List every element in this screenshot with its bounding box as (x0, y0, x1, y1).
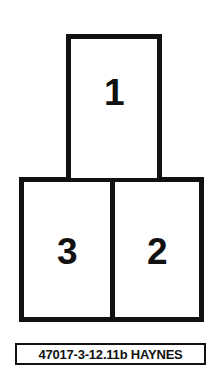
caption-reference-text: 47017-3-12.11b HAYNES (38, 348, 182, 361)
box-merge-gap (71, 172, 157, 178)
diagram-box-3: 3 (19, 177, 115, 322)
caption-plate: 47017-3-12.11b HAYNES (15, 343, 206, 365)
figure-root: 1 3 2 47017-3-12.11b HAYNES (0, 0, 219, 382)
box-2-label: 2 (147, 233, 167, 270)
box-1-label: 1 (104, 74, 124, 111)
box-divider-line (111, 177, 115, 322)
diagram-box-1: 1 (66, 34, 162, 182)
box-3-label: 3 (57, 233, 77, 270)
diagram-box-2: 2 (111, 177, 204, 322)
